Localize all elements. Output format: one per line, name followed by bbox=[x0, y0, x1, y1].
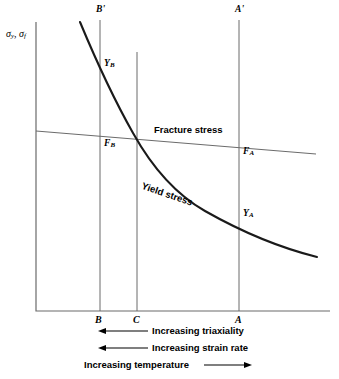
point-label-f-b: FB bbox=[104, 138, 115, 149]
point-label-f-b-sub: B bbox=[111, 141, 116, 149]
tick-label-c: C bbox=[133, 314, 140, 325]
figure-container: σy, σf B' A' B C A YB FB FA YA Fracture … bbox=[0, 0, 339, 379]
annotation-triaxiality: Increasing triaxiality bbox=[152, 325, 244, 336]
yield-stress-curve bbox=[80, 22, 317, 257]
point-label-f-a: FA bbox=[243, 146, 254, 157]
line-label-a-prime: A' bbox=[235, 4, 244, 14]
point-label-y-a: YA bbox=[243, 208, 254, 219]
point-label-y-a-sub: A bbox=[249, 211, 254, 219]
point-label-f-a-sub: A bbox=[250, 149, 255, 157]
axis-frame bbox=[36, 22, 330, 311]
sigma-fracture-subscript: f bbox=[24, 32, 26, 40]
point-label-y-b: YB bbox=[104, 58, 115, 69]
point-label-y-b-sub: B bbox=[110, 61, 115, 69]
fracture-stress-label: Fracture stress bbox=[154, 124, 223, 135]
tick-label-a: A bbox=[235, 314, 242, 325]
line-label-b-prime: B' bbox=[96, 4, 105, 14]
tick-label-b: B bbox=[95, 314, 102, 325]
y-axis-label: σy, σf bbox=[6, 28, 26, 40]
arrow-triaxiality bbox=[98, 328, 148, 334]
arrow-strain-rate bbox=[98, 345, 148, 351]
annotation-strain-rate: Increasing strain rate bbox=[152, 342, 248, 353]
arrow-temperature bbox=[204, 362, 252, 368]
annotation-temperature: Increasing temperature bbox=[84, 359, 189, 370]
